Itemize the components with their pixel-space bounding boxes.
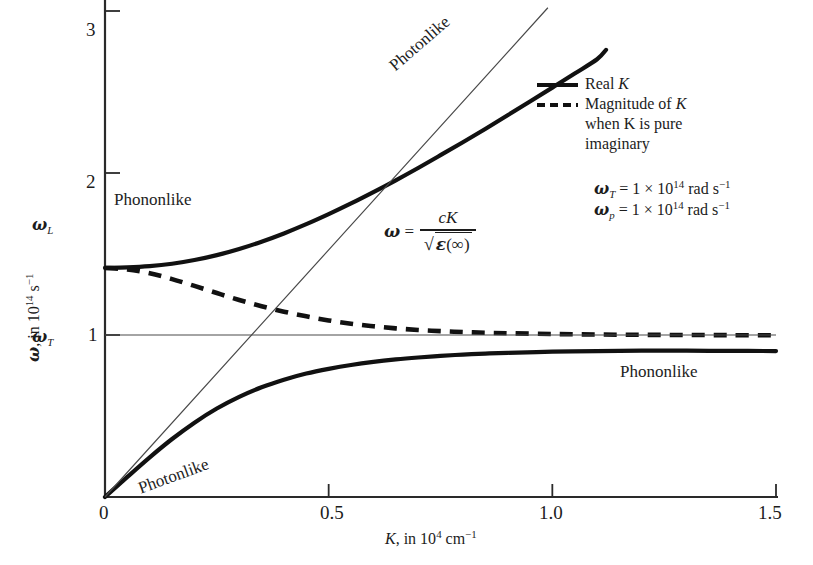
parameter-omega-p-symbol: ω [594,200,609,219]
omega-L-symbol: ω [32,215,47,234]
equation-numerator: cK [432,208,463,229]
sqrt-icon: √ [424,234,434,254]
x-tick-label-1-5: 1.5 [758,502,782,524]
x-tick-label-1-0: 1.0 [539,502,563,524]
legend: Real K Magnitude of K when K is pure ima… [536,74,806,154]
parameter-omega-T-value: = 1 × 10 [615,180,673,197]
x-tick-label-0-5: 0.5 [320,502,344,524]
x-axis-title-exponent: 4 [436,528,441,540]
parameter-omega-T-unit: rad s [684,180,719,197]
legend-magnitude-line2: when K is pure [536,114,806,134]
y-axis-title-unit: s [25,285,42,291]
x-axis-title-unit-exponent: −1 [465,528,477,540]
y-axis-title-exponent: 14 [23,295,35,306]
curve-magnitude-of-k-when-k-is-pure-imaginary [105,268,776,335]
legend-item-magnitude-k: Magnitude of K [536,94,806,114]
legend-real-k-text: Real [585,75,618,92]
legend-magnitude-symbol: K [676,95,687,112]
legend-dashed-line-icon [536,94,580,114]
legend-item-real-k: Real K [536,74,806,94]
legend-label-magnitude-k: Magnitude of K [585,94,686,114]
legend-magnitude-when: when [585,115,624,132]
omega-T-subscript: T [47,336,53,348]
equation-radicand: ε(∞) [435,232,472,255]
y-axis-title-symbol: ω [24,347,43,362]
x-axis-title-rest: , in 10 [396,530,436,547]
parameter-omega-p-exponent: 14 [673,199,684,211]
legend-real-k-symbol: K [618,75,629,92]
annotation-phononlike-upper: Phononlike [114,190,191,210]
y-axis-title: ω, in 1014 s−1 [24,274,43,362]
parameter-omega-p-unit: rad s [684,201,719,218]
curve-light-line-omega-ck-sqrt-eps-inf [105,8,548,497]
y-axis-title-unit-exponent: −1 [23,274,35,286]
y-tick-label-3: 3 [86,19,96,41]
equation-denominator: √ε(∞) [420,231,476,255]
parameter-list: ωT = 1 × 1014 rad s−1 ωp = 1 × 1014 rad … [594,178,730,220]
equation-fraction: cK √ε(∞) [420,208,476,255]
parameter-omega-p-unit-exponent: −1 [718,199,730,211]
y-tick-label-1: 1 [88,324,98,346]
legend-magnitude-ispure: is pure [635,115,682,132]
polariton-dispersion-figure: 3 2 1 0 0.5 1.0 1.5 ωL ωT ω, in 1014 s−1… [0,0,813,565]
x-axis-title-unit: cm [446,530,466,547]
legend-solid-line-icon [536,74,580,94]
legend-magnitude-line3: imaginary [536,134,806,154]
parameter-omega-p: ωp = 1 × 1014 rad s−1 [594,199,730,220]
parameter-omega-p-value: = 1 × 10 [615,201,673,218]
equation-epsilon-arg: (∞) [446,235,469,254]
equation-equals: = [400,222,414,241]
parameter-omega-T: ωT = 1 × 1014 rad s−1 [594,178,730,199]
y-axis-title-rest: , in 10 [25,306,42,346]
parameter-omega-T-symbol: ω [594,179,609,198]
curve-upper-polariton-branch-real-k [105,50,606,268]
legend-magnitude-text: Magnitude of [585,95,676,112]
equation-epsilon-symbol: ε [436,234,446,254]
y-tick-label-2: 2 [86,171,96,193]
x-axis-title: K, in 104 cm−1 [385,530,477,548]
equation-omega-symbol: ω [384,221,400,241]
light-line-equation: ω = cK √ε(∞) [384,208,476,255]
equation-lhs: ω = [384,221,414,242]
legend-label-real-k: Real K [585,74,629,94]
x-tick-label-0: 0 [99,502,109,524]
legend-magnitude-k-symbol-2: K [624,115,636,132]
x-axis-title-symbol: K [385,530,396,547]
omega-L-marker: ωL [32,215,53,234]
annotation-phononlike-lower: Phononlike [620,362,697,382]
parameter-omega-T-unit-exponent: −1 [719,178,731,190]
omega-L-subscript: L [47,224,53,236]
parameter-omega-T-exponent: 14 [673,178,684,190]
